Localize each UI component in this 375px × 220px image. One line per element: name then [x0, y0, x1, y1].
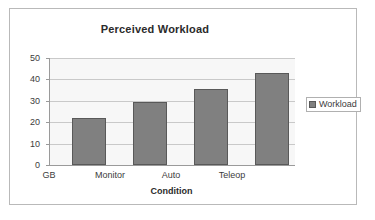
legend-swatch-icon: [309, 101, 316, 108]
y-tick-label-0: 0: [10, 161, 40, 170]
y-tick-label-30: 30: [10, 97, 40, 106]
bar-teleop[interactable]: [255, 73, 289, 165]
y-tick-label-10: 10: [10, 140, 40, 149]
bar-auto[interactable]: [194, 89, 228, 165]
y-tick-label-50: 50: [10, 54, 40, 63]
x-tick-label-auto: Auto: [141, 170, 201, 180]
bar-gb[interactable]: [72, 118, 106, 165]
x-tick-label-teleop: Teleop: [202, 170, 262, 180]
plot-area: [49, 58, 295, 166]
y-tick-label-40: 40: [10, 75, 40, 84]
bar-monitor[interactable]: [133, 102, 167, 165]
legend-label-workload: Workload: [319, 100, 357, 109]
x-axis-title: Condition: [49, 186, 294, 196]
chart-frame: Perceived Workload 50 40 30 20 10 0 GB M…: [9, 8, 357, 205]
y-tick-label-20: 20: [10, 118, 40, 127]
chart-legend[interactable]: Workload: [306, 97, 361, 112]
gridline-50: [50, 58, 295, 59]
x-tick-label-monitor: Monitor: [80, 170, 140, 180]
x-tick-label-gb: GB: [19, 170, 79, 180]
chart-title: Perceived Workload: [10, 23, 300, 35]
